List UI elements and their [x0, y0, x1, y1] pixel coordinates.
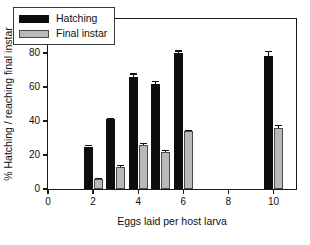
x-axis-tick [92, 189, 93, 194]
black-bar-swatch-icon [19, 15, 49, 23]
x-axis-tick-label: 8 [226, 197, 232, 207]
error-bar-cap [175, 50, 182, 51]
x-axis-tick-label: 10 [268, 197, 279, 207]
error-bar-cap [265, 51, 272, 52]
x-axis-tick [273, 189, 274, 194]
y-axis-tick-label: 40 [29, 116, 40, 126]
error-bar-cap [107, 118, 114, 119]
chart-legend: Hatching Final instar [13, 7, 115, 45]
y-axis-tick-label: 80 [29, 48, 40, 58]
error-bar-cap [162, 150, 169, 151]
bar-final-instar-5 [161, 152, 170, 189]
x-axis-title: Eggs laid per host larva [47, 215, 297, 227]
bar-final-instar-3 [116, 167, 125, 189]
y-axis-tick-label: 20 [29, 150, 40, 160]
bar-hatching-3 [106, 119, 115, 189]
error-bar-cap [85, 145, 92, 146]
error-bar-cap [95, 178, 102, 179]
bar-hatching-10 [264, 56, 273, 189]
x-axis-tick-label: 2 [90, 197, 96, 207]
error-bar-cap [117, 165, 124, 166]
bar-chart-figure: % Hatching / reaching final instar 02040… [0, 0, 310, 245]
y-axis-tick-label: 60 [29, 82, 40, 92]
bar-final-instar-10 [274, 128, 283, 189]
bar-hatching-2 [84, 147, 93, 190]
y-axis-tick [43, 120, 48, 121]
bar-final-instar-4 [139, 145, 148, 189]
x-axis-tick [47, 189, 48, 194]
x-axis-tick [228, 189, 229, 194]
x-axis-tick [183, 189, 184, 194]
y-axis-tick [43, 52, 48, 53]
legend-item-hatching: Hatching [19, 12, 107, 25]
gray-bar-swatch-icon [19, 30, 49, 38]
y-axis-tick-label: 0 [34, 184, 40, 194]
error-bar-cap [130, 73, 137, 74]
bar-hatching-5 [151, 84, 160, 189]
x-axis-tick-label: 0 [45, 197, 51, 207]
bar-final-instar-2 [94, 179, 103, 189]
bar-hatching-4 [129, 77, 138, 189]
x-axis-tick-label: 6 [180, 197, 186, 207]
error-bar-cap [152, 81, 159, 82]
x-axis-tick [138, 189, 139, 194]
bar-hatching-6 [174, 53, 183, 189]
legend-label-hatching: Hatching [56, 13, 97, 24]
x-axis-tick-label: 4 [135, 197, 141, 207]
error-bar-cap [185, 130, 192, 131]
error-bar-cap [140, 143, 147, 144]
y-axis-tick [43, 86, 48, 87]
bar-final-instar-6 [184, 131, 193, 189]
error-bar-cap [275, 125, 282, 126]
y-axis-tick [43, 154, 48, 155]
legend-item-final-instar: Final instar [19, 27, 107, 40]
legend-label-final-instar: Final instar [56, 28, 107, 39]
